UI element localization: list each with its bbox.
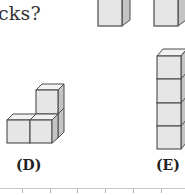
option-e-label: (E) (156, 157, 180, 173)
question-text-fragment: cks? (0, 2, 41, 24)
ruler-tick (133, 189, 134, 193)
top-cube-right-icon (150, 0, 185, 32)
ruler-tick (22, 189, 23, 193)
ruler-tick (105, 189, 106, 193)
figure-d-blocks-icon (4, 82, 68, 148)
ruler-tick (77, 189, 78, 193)
option-d-label: (D) (16, 157, 41, 173)
ruler-tick (161, 189, 162, 193)
figure-e-blocks-icon (153, 46, 185, 152)
ruler-tick (50, 189, 51, 193)
top-cube-left-icon (94, 0, 134, 32)
bottom-divider-line (0, 188, 185, 189)
